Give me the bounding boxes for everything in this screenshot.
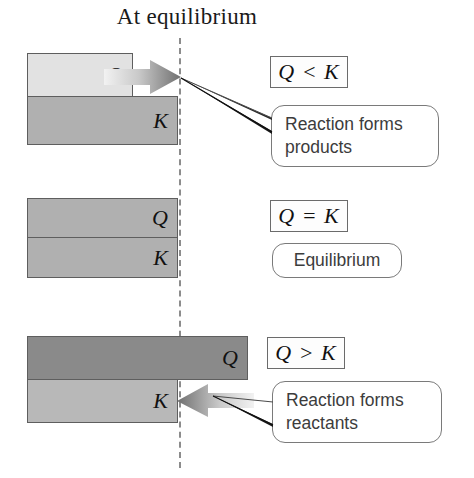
row3-inequality-box: Q > K (267, 337, 345, 369)
row3-inequality-label: Q > K (275, 340, 336, 366)
row2-q-label: Q (152, 207, 177, 229)
row3-q-label: Q (222, 347, 247, 369)
row1-callout-label: Reaction forms products (285, 114, 403, 157)
row2-q-bar: Q (27, 198, 178, 238)
row1-inequality-box: Q < K (270, 56, 348, 88)
right-arrow-icon (104, 59, 182, 95)
row3-callout-label: Reaction forms reactants (286, 390, 404, 433)
row3-k-label: K (153, 390, 177, 412)
row2-callout-label: Equilibrium (294, 249, 381, 272)
row2-callout: Equilibrium (272, 243, 402, 278)
row1-k-bar: K (27, 96, 178, 145)
row2-k-label: K (153, 247, 177, 269)
row2-inequality-label: Q = K (278, 203, 339, 229)
row1-k-label: K (153, 110, 177, 132)
row3-k-bar: K (27, 379, 178, 423)
row1-callout: Reaction forms products (271, 105, 439, 167)
row2-inequality-box: Q = K (270, 200, 348, 232)
row2-k-bar: K (27, 237, 178, 278)
left-arrow-icon (176, 384, 254, 418)
row3-callout: Reaction forms reactants (272, 381, 442, 443)
equilibrium-diagram: At equilibrium Q K Q < K Reaction forms … (0, 0, 474, 478)
row1-inequality-label: Q < K (278, 59, 339, 85)
row3-q-bar: Q (27, 336, 248, 380)
page-title: At equilibrium (0, 4, 374, 30)
